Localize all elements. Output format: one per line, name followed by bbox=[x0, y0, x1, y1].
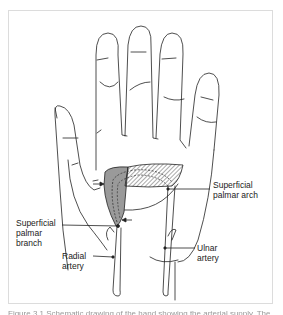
palm-radial-edge bbox=[68, 160, 107, 250]
index-finger bbox=[96, 33, 127, 170]
label-superficial-palmar-arch: Superficial palmar arch bbox=[213, 180, 258, 200]
superficial-palmar-branch-region bbox=[104, 167, 128, 226]
hand-diagram bbox=[0, 0, 283, 315]
ring-finger bbox=[156, 33, 186, 148]
label-radial-artery: Radial artery bbox=[62, 251, 86, 271]
ulnar-artery bbox=[163, 186, 175, 296]
thumb bbox=[55, 106, 100, 270]
leader-branch bbox=[62, 225, 118, 226]
label-ulnar-artery: Ulnar artery bbox=[197, 243, 219, 263]
figure-caption: Figure 3.1 Schematic drawing of the hand… bbox=[8, 308, 278, 315]
superficial-palmar-arch-region bbox=[125, 164, 183, 187]
label-superficial-palmar-branch: Superficial palmar branch bbox=[16, 218, 56, 248]
middle-finger bbox=[125, 26, 158, 139]
little-finger bbox=[189, 73, 219, 150]
leader-radial bbox=[93, 256, 113, 257]
radial-artery bbox=[113, 226, 121, 296]
